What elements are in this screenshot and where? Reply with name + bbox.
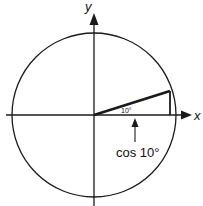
pointer-arrow-icon <box>132 118 139 127</box>
unit-circle-diagram: y x 10° cos 10° <box>0 0 203 206</box>
cos-label: cos 10° <box>116 145 160 160</box>
angle-label: 10° <box>121 107 132 114</box>
radius-line <box>94 91 170 115</box>
y-axis-label: y <box>84 0 93 14</box>
diagram-svg: y x 10° cos 10° <box>0 0 203 206</box>
x-axis-arrow-icon <box>181 111 192 120</box>
x-axis-label: x <box>193 108 201 123</box>
y-axis-arrow-icon <box>90 13 99 25</box>
